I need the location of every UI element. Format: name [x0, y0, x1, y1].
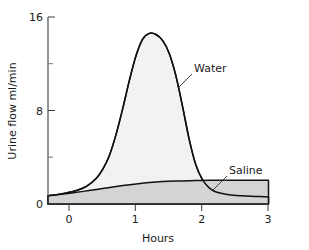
y-tick-label-0: 0 — [36, 198, 43, 211]
x-axis-title: Hours — [142, 232, 174, 245]
x-tick-label-3: 3 — [265, 213, 272, 226]
chart-plot-area: 16 8 0 0 1 2 3 Hours Urine flow ml/min W… — [0, 0, 309, 250]
series-label-water: Water — [194, 62, 227, 75]
y-tick-label-8: 8 — [36, 105, 43, 118]
x-tick-label-1: 1 — [132, 213, 139, 226]
series-label-saline: Saline — [229, 164, 263, 177]
series-area-water — [48, 33, 269, 204]
y-axis-title: Urine flow ml/min — [6, 62, 19, 159]
y-tick-label-16: 16 — [29, 11, 43, 24]
x-tick-label-0: 0 — [66, 213, 73, 226]
water-leader-line — [178, 74, 192, 88]
x-tick-label-2: 2 — [198, 213, 205, 226]
urine-flow-chart-figure: 16 8 0 0 1 2 3 Hours Urine flow ml/min W… — [0, 0, 309, 250]
series-area-saline — [48, 180, 269, 204]
